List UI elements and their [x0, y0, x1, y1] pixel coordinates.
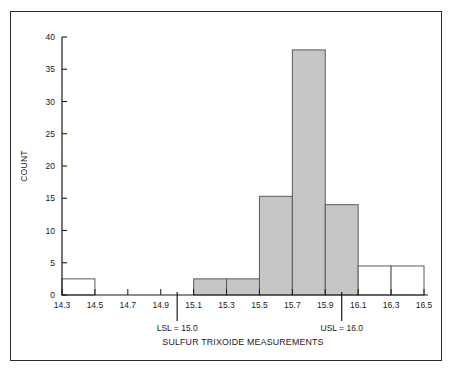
- histogram-bar: [358, 266, 391, 295]
- x-axis-title: SULFUR TRIXOIDE MEASUREMENTS: [162, 337, 323, 347]
- y-axis-tick-label: 20: [46, 161, 56, 171]
- histogram-bar: [194, 279, 227, 295]
- spec-limits-group: LSL = 15.0USL = 16.0: [157, 292, 364, 333]
- x-axis-tick-label: 14.5: [87, 300, 104, 310]
- x-axis-tick-label: 15.9: [317, 300, 334, 310]
- y-axis: 0510152025303540: [46, 32, 67, 300]
- histogram-figure: 0510152025303540COUNT14.314.514.714.915.…: [0, 0, 452, 373]
- spec-limit-label-lsl: LSL = 15.0: [157, 323, 198, 333]
- x-axis-tick-label: 16.1: [350, 300, 367, 310]
- y-axis-tick-label: 30: [46, 97, 56, 107]
- x-axis-tick-label: 15.3: [218, 300, 235, 310]
- histogram-plot: 0510152025303540COUNT14.314.514.714.915.…: [0, 0, 452, 373]
- x-axis-tick-label: 15.5: [251, 300, 268, 310]
- y-axis-tick-label: 15: [46, 193, 56, 203]
- y-axis-tick-label: 40: [46, 32, 56, 42]
- x-axis-tick-label: 15.7: [284, 300, 301, 310]
- y-axis-tick-label: 25: [46, 129, 56, 139]
- x-axis-tick-label: 14.7: [120, 300, 137, 310]
- histogram-bar: [227, 279, 260, 295]
- histogram-bar: [325, 205, 358, 295]
- spec-limit-label-usl: USL = 16.0: [321, 323, 364, 333]
- y-axis-tick-label: 0: [50, 290, 55, 300]
- x-axis-tick-label: 14.9: [152, 300, 169, 310]
- histogram-bar: [62, 279, 95, 295]
- x-axis-tick-label: 14.3: [54, 300, 71, 310]
- x-axis-tick-label: 15.1: [185, 300, 202, 310]
- bars-group: [62, 50, 424, 295]
- y-axis-tick-label: 10: [46, 226, 56, 236]
- histogram-bar: [292, 50, 325, 295]
- x-axis-tick-label: 16.3: [383, 300, 400, 310]
- y-axis-tick-label: 5: [50, 258, 55, 268]
- histogram-bar: [391, 266, 424, 295]
- x-axis-tick-label: 16.5: [416, 300, 433, 310]
- y-axis-tick-label: 35: [46, 64, 56, 74]
- y-axis-title: COUNT: [19, 150, 29, 182]
- histogram-bar: [259, 196, 292, 295]
